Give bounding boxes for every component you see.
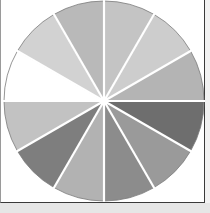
wheel-center-hub	[100, 97, 108, 105]
gray-wheel-diagram	[0, 0, 210, 213]
